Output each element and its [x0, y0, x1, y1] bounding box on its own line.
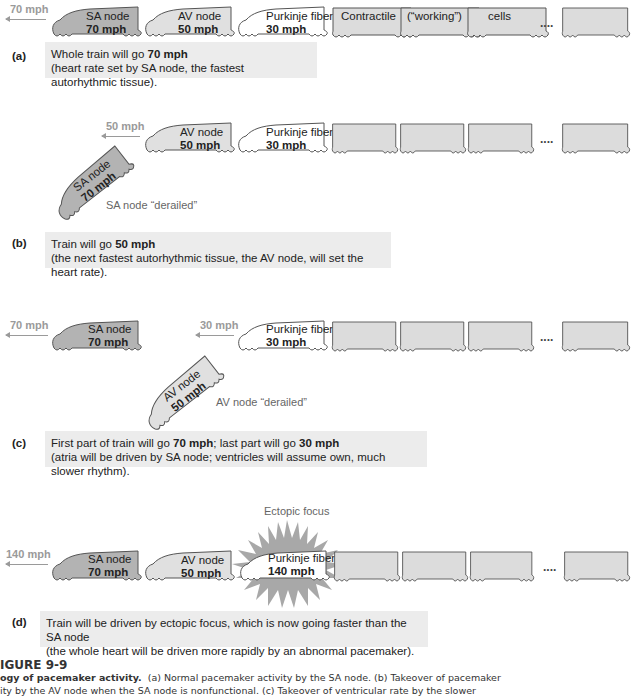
caption-text: (the whole heart will be driven more rap… [46, 644, 422, 658]
derailed-sa-node-car: SA node70 mph [44, 139, 140, 224]
car-name: Purkinje fiber [268, 552, 335, 564]
train-car-contractile [399, 320, 467, 352]
car-name: (“working”) [407, 10, 462, 23]
car-name: cells [488, 10, 511, 23]
ectopic-focus-label: Ectopic focus [264, 505, 329, 517]
train-speed-label: 70 mph [10, 3, 49, 15]
caption-box: Train will go 50 mph (the next fastest a… [45, 232, 391, 268]
caption-text: Whole train will go [51, 48, 148, 60]
boxcar-icon [399, 122, 467, 154]
caption-text: (the next fastest autorhythmic tissue, t… [51, 251, 385, 279]
boxcar-icon [331, 122, 399, 154]
car-name: Purkinje fiber [266, 126, 333, 138]
figure-caption-text: (a) Normal pacemaker activity by the SA … [142, 672, 501, 683]
front-speed-label: 70 mph [10, 319, 49, 331]
train-car-contractile [401, 550, 469, 582]
figure-caption-bold: ogy of pacemaker activity. [0, 672, 142, 683]
car-speed: 50 mph [178, 23, 221, 36]
left-arrow-icon [6, 19, 46, 20]
train-car-last [561, 320, 631, 352]
figure-caption-line-1: ogy of pacemaker activity. (a) Normal pa… [0, 671, 501, 684]
boxcar-icon [469, 550, 535, 582]
caption-text: (atria will be driven by SA node; ventri… [51, 450, 421, 478]
car-speed: 50 mph [180, 139, 223, 152]
boxcar-icon [401, 550, 469, 582]
boxcar-icon [467, 122, 535, 154]
train-car-contractile [399, 122, 467, 154]
car-name: AV node [180, 126, 223, 138]
boxcar-icon [561, 6, 631, 38]
derailed-note: SA node “derailed” [106, 199, 197, 211]
caption-box: Train will be driven by ectopic focus, w… [40, 611, 428, 647]
boxcar-icon [331, 320, 399, 352]
train-car-contractile [331, 122, 399, 154]
car-name: AV node [178, 10, 221, 22]
car-name: Purkinje fiber [266, 10, 333, 22]
caption-text: First part of train will go [51, 437, 173, 449]
train-car-purkinje-fiber: Purkinje fiber30 mph [236, 120, 331, 154]
train-car-contractile [331, 320, 399, 352]
caption-bold: 70 mph [148, 48, 188, 60]
left-arrow-icon [6, 564, 48, 565]
boxcar-icon [563, 550, 631, 582]
train-car-last [563, 550, 631, 582]
ellipsis: .... [540, 330, 553, 344]
boxcar-icon [399, 320, 467, 352]
panel-tag: (d) [12, 616, 27, 628]
car-speed: 30 mph [266, 139, 333, 152]
caption-text: ; last part will go [213, 437, 299, 449]
ellipsis: .... [540, 16, 553, 30]
train-car-sa-node: SA node70 mph [50, 318, 145, 352]
caption-text: Train will be driven by ectopic focus, w… [46, 616, 422, 644]
ellipsis: .... [543, 560, 556, 574]
caption-text: (heart rate set by SA node, the fastest … [51, 61, 311, 89]
train-car-av-node: AV node50 mph [143, 4, 238, 38]
caption-box: First part of train will go 70 mph; last… [45, 431, 427, 467]
train-car-av-node: AV node50 mph [143, 548, 238, 582]
car-name: AV node [181, 554, 224, 566]
caption-bold: 30 mph [299, 437, 339, 449]
left-arrow-icon [6, 335, 48, 336]
panel-tag: (b) [12, 237, 27, 249]
caption-box: Whole train will go 70 mph (heart rate s… [45, 42, 317, 78]
panel-tag: (c) [12, 437, 26, 449]
train-car-av-node: AV node50 mph [143, 120, 238, 154]
train-car-contractile [467, 320, 535, 352]
caption-bold: 50 mph [115, 238, 155, 250]
ellipsis: .... [540, 132, 553, 146]
train-car-contractile [469, 550, 535, 582]
train-car-purkinje-fiber: Purkinje fiber30 mph [236, 4, 331, 38]
car-speed: 30 mph [266, 23, 333, 36]
train-car-contractile [467, 122, 535, 154]
car-name: Purkinje fiber [266, 323, 333, 335]
derailed-av-node-car: AV node50 mph [134, 349, 230, 434]
car-speed: 70 mph [88, 566, 131, 579]
car-speed: 70 mph [88, 336, 131, 349]
caption-bold: 70 mph [173, 437, 213, 449]
car-speed: 30 mph [266, 336, 333, 349]
train-car-contractile [333, 550, 401, 582]
left-arrow-icon [102, 136, 140, 137]
left-arrow-icon [196, 335, 234, 336]
boxcar-icon [561, 320, 631, 352]
train-car-cells: cells [466, 6, 550, 38]
car-name: Contractile [341, 10, 396, 23]
train-car-sa-node: SA node70 mph [50, 4, 145, 38]
car-name: SA node [86, 10, 129, 22]
car-name: SA node [88, 553, 131, 565]
panel-tag: (a) [12, 50, 26, 62]
car-name: SA node [88, 323, 131, 335]
car-speed: 70 mph [86, 23, 129, 36]
train-car-last [561, 6, 631, 38]
car-speed: 140 mph [268, 565, 335, 578]
boxcar-icon [467, 320, 535, 352]
train-speed-label: 140 mph [6, 548, 51, 560]
boxcar-icon [333, 550, 401, 582]
train-car-sa-node: SA node70 mph [50, 548, 145, 582]
train-car-purkinje-fiber: Purkinje fiber140 mph [238, 548, 333, 582]
train-car-last [561, 122, 631, 154]
figure-caption-line-2: ity by the AV node when the SA node is n… [0, 684, 476, 696]
boxcar-icon [561, 122, 631, 154]
caption-text: Train will go [51, 238, 115, 250]
train-speed-label: 50 mph [106, 120, 145, 132]
